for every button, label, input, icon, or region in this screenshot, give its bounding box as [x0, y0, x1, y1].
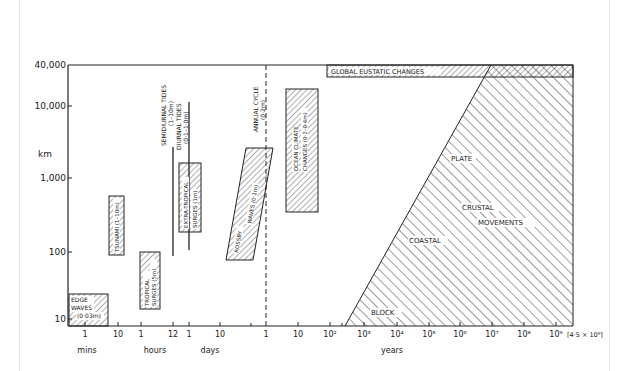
- x-tick-1-min: 1: [82, 330, 87, 339]
- diurnal-tides-label: DIURNAL TIDES (0·1–1·0m): [175, 103, 189, 150]
- svg-text:GLOBAL EUSTATIC CHANGES: GLOBAL EUSTATIC CHANGES: [331, 68, 424, 76]
- x-tick-1e3-years: 10³: [357, 330, 370, 339]
- x-tick-1e4-years: 10⁴: [390, 330, 403, 339]
- tropical-surges-box: TROPICAL SURGES (5m): [140, 252, 160, 309]
- x-unit-days: days: [201, 346, 220, 355]
- x-tick-1e7-years: 10⁷: [485, 330, 498, 339]
- plate-label: PLATE: [451, 155, 472, 163]
- movements-label: MOVEMENTS: [478, 219, 524, 227]
- x-tick-1-day: 1: [186, 330, 191, 339]
- annual-cycle-label: ANNUAL CYCLE (0·2m): [252, 86, 266, 132]
- x-tick-12-hours: 12: [168, 330, 178, 339]
- svg-text:TROPICAL: TROPICAL: [144, 278, 150, 307]
- x-tick-1e6-years: 10⁶: [453, 330, 466, 339]
- crustal-label: CRUSTAL: [462, 204, 494, 212]
- edge-waves-box: EDGE WAVES (0·03m): [69, 294, 108, 326]
- semidiurnal-tides-label: SEMIDIURNAL TIDES (1–10m): [160, 85, 174, 146]
- x-tick-1e9-years: 10⁹: [549, 330, 562, 339]
- svg-text:SEMIDIURNAL TIDES: SEMIDIURNAL TIDES: [160, 85, 167, 146]
- svg-text:ANNUAL CYCLE: ANNUAL CYCLE: [252, 86, 259, 132]
- x-tick-1-year: 1: [263, 330, 268, 339]
- x-tick-10-days: 10: [215, 330, 225, 339]
- svg-text:TSUNAMI (1–10m): TSUNAMI (1–10m): [114, 202, 120, 253]
- svg-text:WAVES: WAVES: [71, 304, 92, 311]
- y-tick-100: 100: [49, 247, 66, 257]
- x-axis-tick-labels: 1 10 1 12 1 10 1 10 10² 10³ 10⁴ 10⁵ 10⁶ …: [77, 330, 603, 355]
- sea-level-scale-diagram: 40,000 10,000 1,000 100 10 km 1 10 1 12 …: [0, 0, 629, 371]
- y-axis-unit-label: km: [38, 149, 52, 159]
- y-tick-10000: 10,000: [35, 101, 67, 111]
- y-tick-40000: 40,000: [35, 60, 67, 70]
- svg-text:EDGE: EDGE: [71, 296, 88, 303]
- svg-text:(0·03m): (0·03m): [77, 312, 101, 319]
- x-tick-1-hour: 1: [138, 330, 143, 339]
- x-unit-years: years: [381, 346, 403, 355]
- y-tick-10: 10: [55, 314, 67, 324]
- ocean-climate-changes-box: OCEAN CLIMATE CHANGES (0·2–0·4m): [286, 89, 318, 212]
- x-tick-1e5-years: 10⁵: [422, 330, 435, 339]
- svg-text:(1–10m): (1–10m): [167, 101, 174, 126]
- svg-text:CHANGES (0·2–0·4m): CHANGES (0·2–0·4m): [302, 112, 308, 171]
- crustal-movements-region: PLATE CRUSTAL MOVEMENTS COASTAL BLOCK: [345, 65, 573, 326]
- svg-text:(0·2m): (0·2m): [259, 100, 266, 120]
- svg-text:EXTRA-TROPICAL: EXTRA-TROPICAL: [183, 181, 189, 228]
- x-unit-mins: mins: [77, 346, 96, 355]
- svg-text:(0·1–1·0m): (0·1–1·0m): [182, 111, 189, 144]
- coastal-label: COASTAL: [409, 237, 441, 245]
- block-label: BLOCK: [371, 309, 395, 317]
- svg-text:OCEAN CLIMATE: OCEAN CLIMATE: [293, 126, 299, 171]
- x-tick-10-years: 10: [293, 330, 303, 339]
- svg-text:SURGES (1m): SURGES (1m): [192, 191, 198, 228]
- tsunami-box: TSUNAMI (1–10m): [109, 196, 124, 255]
- y-axis-ticks: 40,000 10,000 1,000 100 10 km: [35, 60, 73, 324]
- extra-tropical-surges-box: EXTRA-TROPICAL SURGES (1m): [179, 163, 201, 232]
- y-tick-1000: 1,000: [40, 173, 66, 183]
- x-tick-10-min: 10: [113, 330, 123, 339]
- svg-text:SURGES (5m): SURGES (5m): [151, 269, 157, 306]
- x-tick-1e2-years: 10²: [323, 330, 336, 339]
- x-axis-end-label: [4·5 × 10⁹]: [567, 331, 603, 339]
- svg-text:DIURNAL TIDES: DIURNAL TIDES: [175, 103, 182, 150]
- x-unit-hours: hours: [144, 346, 167, 355]
- x-tick-1e8-years: 10⁸: [517, 330, 530, 339]
